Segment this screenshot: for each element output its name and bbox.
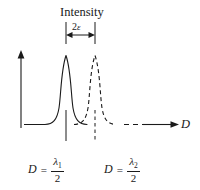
equation-peak-2-numerator: λ2: [127, 156, 140, 171]
y-axis: [18, 50, 25, 128]
equation-peak-1-variable: D: [28, 162, 37, 177]
equation-peak-1-numerator: λ1: [51, 156, 64, 171]
lambda-subscript-1: 1: [58, 161, 62, 170]
figure-title: Intensity: [60, 6, 104, 19]
x-axis: [143, 121, 179, 128]
equation-peak-2-equals: =: [116, 164, 124, 176]
y-axis-arrowhead: [18, 50, 25, 59]
x-axis-label: D: [181, 118, 190, 131]
lambda-subscript-2: 2: [134, 161, 138, 170]
separation-arrowhead-left: [66, 32, 73, 38]
equation-peak-2: D = λ2 2: [104, 156, 140, 184]
equation-peak-2-denominator: 2: [129, 172, 139, 184]
intensity-figure: Intensity 2ε D D = λ1 2 D = λ2 2: [0, 0, 200, 190]
separation-arrowhead-right: [89, 32, 96, 38]
peak-curve-dashed: [74, 56, 116, 125]
separation-label: 2ε: [72, 22, 81, 32]
equation-peak-1: D = λ1 2: [28, 156, 64, 184]
equation-peak-2-variable: D: [104, 162, 113, 177]
epsilon-symbol: ε: [77, 22, 81, 32]
equation-peak-1-denominator: 2: [53, 172, 63, 184]
equation-peak-1-equals: =: [40, 164, 48, 176]
equation-peak-2-fraction: λ2 2: [127, 156, 140, 184]
separation-arrow: [66, 32, 95, 38]
equation-peak-1-fraction: λ1 2: [51, 156, 64, 184]
x-axis-arrowhead: [171, 121, 180, 128]
